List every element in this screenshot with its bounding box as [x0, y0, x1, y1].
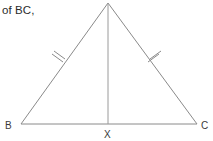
tick-left-icon [52, 51, 65, 62]
vertex-label-c: C [201, 121, 208, 131]
figure-canvas: of BC, B C X [0, 0, 213, 141]
vertex-label-b: B [5, 121, 12, 131]
vertex-label-x: X [104, 130, 111, 140]
side-ab-line [21, 3, 108, 124]
tick-right-icon [148, 51, 161, 62]
triangle-diagram [0, 0, 213, 141]
side-ac-line [108, 3, 197, 124]
